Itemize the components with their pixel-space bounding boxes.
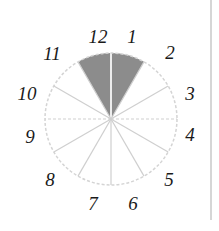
hour-label-11: 11	[43, 43, 61, 64]
hour-label-4: 4	[185, 124, 195, 145]
hour-label-12: 12	[89, 26, 109, 47]
hour-label-8: 8	[45, 169, 55, 190]
clock-diagram: 12 1 2 3 4 5 6 7 8 9 10 11	[0, 0, 219, 231]
hour-label-2: 2	[165, 42, 175, 63]
sector-divider-7	[78, 119, 111, 176]
sector-divider-5	[111, 119, 144, 176]
hour-label-7: 7	[88, 193, 99, 214]
hour-label-6: 6	[128, 193, 138, 214]
sector-divider-4	[111, 119, 168, 152]
hour-label-10: 10	[18, 83, 38, 104]
hour-label-9: 9	[25, 126, 35, 147]
hour-label-5: 5	[164, 169, 174, 190]
hour-label-3: 3	[184, 83, 195, 104]
vertical-divider-line	[210, 0, 212, 220]
sector-divider-8	[54, 119, 111, 152]
hour-label-1: 1	[127, 26, 137, 47]
